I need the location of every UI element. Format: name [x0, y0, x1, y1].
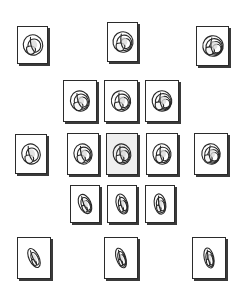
spiral-shell-icon: [108, 86, 134, 116]
spiral-shell-icon: [109, 139, 135, 169]
spiral-shell-icon: [149, 86, 175, 116]
shape-card-r4c4[interactable]: [145, 185, 175, 223]
spiral-shell-icon: [20, 30, 46, 60]
spiral-shell-icon: [200, 31, 226, 61]
shape-card-r3c4[interactable]: [146, 133, 178, 175]
shape-card-r4c2[interactable]: [70, 185, 100, 223]
shape-card-r2c4[interactable]: [145, 80, 179, 122]
spiral-shell-icon: [198, 139, 224, 169]
shape-card-r2c3[interactable]: [104, 80, 138, 122]
shape-card-r1c1[interactable]: [17, 26, 48, 64]
spiral-shell-icon: [67, 86, 93, 116]
spiral-shell-icon: [110, 27, 136, 57]
shape-card-r3c2[interactable]: [67, 133, 99, 175]
spiral-shell-icon: [72, 189, 98, 219]
shape-card-r4c3[interactable]: [107, 185, 137, 223]
spiral-shell-icon: [108, 243, 134, 273]
spiral-shell-icon: [18, 139, 44, 169]
spiral-shell-icon: [147, 189, 173, 219]
spiral-shell-icon: [149, 139, 175, 169]
spiral-shell-icon: [21, 243, 47, 273]
shape-card-r3c3[interactable]: [106, 133, 138, 175]
spiral-shell-icon: [70, 139, 96, 169]
shape-card-r5c1[interactable]: [17, 237, 51, 279]
spiral-shell-icon: [109, 189, 135, 219]
spiral-shell-icon: [196, 243, 222, 273]
shape-card-r5c5[interactable]: [192, 237, 226, 279]
shape-card-r3c5[interactable]: [194, 133, 228, 175]
shape-card-r1c3[interactable]: [107, 22, 138, 62]
shape-card-r3c1[interactable]: [15, 134, 47, 174]
shape-card-r5c3[interactable]: [104, 237, 138, 279]
shape-card-r1c5[interactable]: [196, 26, 229, 66]
shape-variation-grid: [0, 0, 245, 290]
shape-card-r2c2[interactable]: [63, 80, 97, 122]
